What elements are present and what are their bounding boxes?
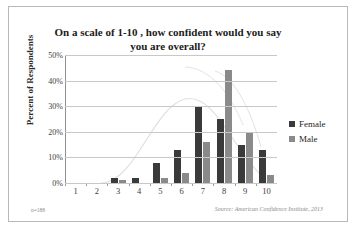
bar-series-container: [65, 55, 277, 183]
x-axis-tick-label: 1: [65, 186, 86, 196]
x-axis-tick-labels: 12345678910: [65, 186, 277, 196]
bar-male-7: [203, 142, 210, 183]
x-axis-tick-label: 9: [235, 186, 256, 196]
chart-legend: FemaleMale: [289, 119, 326, 149]
x-axis-tick-label: 3: [107, 186, 128, 196]
bar-female-6: [174, 150, 181, 183]
y-axis-tick-label: 30%: [35, 102, 63, 111]
bar-group: [65, 55, 86, 183]
gridline: [65, 132, 277, 133]
bar-male-6: [182, 173, 189, 183]
y-axis-tick-label: 20%: [35, 127, 63, 136]
legend-label: Male: [299, 134, 318, 144]
y-axis-tick-label: 0%: [35, 179, 63, 188]
gridline: [65, 157, 277, 158]
bar-male-8: [225, 70, 232, 183]
y-axis-tick-label: 10%: [35, 153, 63, 162]
legend-item-female[interactable]: Female: [289, 119, 326, 129]
x-axis-tick-label: 2: [86, 186, 107, 196]
bar-female-7: [195, 106, 202, 183]
bar-male-10: [267, 175, 274, 183]
bar-group: [86, 55, 107, 183]
gridline: [65, 55, 277, 56]
y-axis-tick-label: 50%: [35, 51, 63, 60]
plot-area-wrapper: Percent of Respondents 0%10%20%30%40%50%…: [9, 7, 349, 223]
bar-group: [107, 55, 128, 183]
legend-swatch-icon: [289, 121, 295, 127]
bar-group: [213, 55, 234, 183]
y-axis-tick-labels: 0%10%20%30%40%50%: [35, 55, 63, 183]
legend-item-male[interactable]: Male: [289, 134, 326, 144]
plot-area: [65, 55, 277, 183]
y-axis-tick-label: 40%: [35, 76, 63, 85]
bar-female-10: [259, 150, 266, 183]
x-axis-tick-label: 5: [150, 186, 171, 196]
bar-group: [150, 55, 171, 183]
bar-group: [192, 55, 213, 183]
bar-female-5: [153, 163, 160, 183]
bar-group: [235, 55, 256, 183]
legend-label: Female: [299, 119, 326, 129]
bar-group: [256, 55, 277, 183]
gridline: [65, 106, 277, 107]
bar-female-8: [217, 119, 224, 183]
y-axis-title: Percent of Respondents: [25, 15, 35, 145]
legend-swatch-icon: [289, 136, 295, 142]
chart-frame: On a scale of 1-10 , how confident would…: [8, 6, 348, 222]
source-note: Source: American Confidence Institute, 2…: [215, 206, 323, 212]
bar-group: [129, 55, 150, 183]
x-axis-tick-label: 4: [129, 186, 150, 196]
sample-size-note: n=188: [31, 207, 45, 213]
x-axis-tick-label: 8: [213, 186, 234, 196]
x-axis-tick-label: 7: [192, 186, 213, 196]
gridline: [65, 81, 277, 82]
bar-group: [171, 55, 192, 183]
bar-female-9: [238, 145, 245, 183]
gridline: [65, 183, 277, 184]
x-axis-tick-label: 6: [171, 186, 192, 196]
x-axis-tick-label: 10: [256, 186, 277, 196]
